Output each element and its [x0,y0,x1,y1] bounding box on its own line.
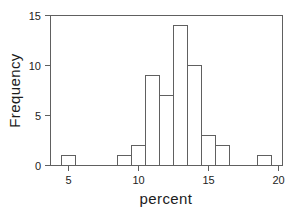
y-axis-title: Frequency [6,51,23,131]
x-tick-label: 10 [132,174,144,186]
histogram-bar [118,156,132,166]
y-tick-label: 15 [29,10,41,22]
histogram-bar [174,26,188,166]
y-tick-label: 5 [35,110,41,122]
histogram-bar [216,146,230,166]
x-tick-label: 15 [202,174,214,186]
histogram-bar [258,156,272,166]
y-tick-label: 0 [35,160,41,172]
histogram-bar [62,156,76,166]
histogram-bar [146,76,160,166]
histogram-bar [160,96,174,166]
histogram-bar [188,66,202,166]
x-tick-label: 20 [272,174,284,186]
x-tick-label: 5 [65,174,71,186]
x-axis-title: percent [106,190,226,207]
histogram-figure: 5101520051015 Frequency percent [0,0,293,211]
histogram-bar [202,136,216,166]
y-tick-label: 10 [29,60,41,72]
histogram-bar [132,146,146,166]
plot-canvas: 5101520051015 [0,0,293,211]
